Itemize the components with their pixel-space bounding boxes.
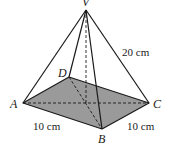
label-C: C	[153, 97, 162, 111]
label-V: V	[82, 0, 91, 9]
label-D: D	[57, 66, 67, 80]
measure-AB: 10 cm	[33, 120, 61, 132]
label-A: A	[9, 97, 18, 111]
label-B: B	[98, 132, 106, 146]
measure-BC: 10 cm	[127, 120, 155, 132]
pyramid-diagram: V D A C B 20 cm 10 cm 10 cm	[0, 0, 170, 152]
measure-VC: 20 cm	[122, 46, 150, 58]
edge-VD	[69, 10, 86, 77]
